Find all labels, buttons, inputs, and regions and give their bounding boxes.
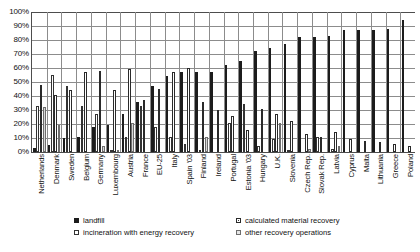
bar: [328, 36, 331, 152]
bar: [99, 71, 102, 152]
y-axis-tick-label: 10%: [14, 134, 29, 142]
x-label-cell: Hungary: [252, 154, 267, 212]
bar: [154, 127, 157, 152]
bar-group: [165, 12, 180, 152]
y-axis-tick-label: 100%: [9, 8, 29, 16]
bar: [143, 100, 146, 152]
bar-group: [341, 12, 356, 152]
x-label-cell: Portugal: [223, 154, 238, 212]
bar: [331, 149, 334, 152]
bar: [320, 137, 323, 152]
bar: [172, 72, 175, 152]
x-label-cell: Cyprus: [340, 154, 355, 212]
bar: [187, 68, 190, 152]
legend-label: other recovery operations: [245, 228, 331, 237]
bar: [136, 102, 139, 152]
bars-layer: [32, 12, 415, 152]
bar-group: [371, 12, 386, 152]
bar: [51, 75, 54, 152]
legend-label: incineration with energy recovery: [83, 228, 194, 237]
plot-area: [31, 12, 415, 153]
x-label-cell: Ireland: [208, 154, 223, 212]
x-label-cell: Poland: [399, 154, 414, 212]
bar-group: [135, 12, 150, 152]
bar: [122, 114, 125, 152]
bar: [69, 90, 72, 152]
bar-group: [47, 12, 62, 152]
x-label-cell: Finland: [193, 154, 208, 212]
legend-item-other-recovery-operations: other recovery operations: [236, 228, 331, 237]
bar: [33, 148, 36, 152]
bar: [63, 138, 66, 152]
x-label-cell: U.K.: [267, 154, 282, 212]
bar: [254, 51, 257, 152]
x-label-cell: France: [134, 154, 149, 212]
bar: [298, 37, 301, 152]
checker-hatch-swatch: [236, 218, 241, 223]
bar: [334, 132, 337, 152]
bar: [284, 44, 287, 152]
bar: [379, 142, 382, 152]
x-label-cell: Slovenia: [281, 154, 296, 212]
bar: [125, 137, 128, 152]
y-axis-tick-label: 50%: [14, 78, 29, 86]
bar-group: [268, 12, 283, 152]
waste-treatment-bar-chart: 0%10%20%30%40%50%60%70%80%90%100% Nether…: [0, 0, 420, 252]
bar-group: [224, 12, 239, 152]
bar: [205, 137, 208, 152]
bar: [279, 123, 282, 152]
x-label-cell: Malta: [355, 154, 370, 212]
bar: [408, 146, 411, 152]
x-label-cell: Italy: [164, 154, 179, 212]
x-axis-tick-label: Poland: [407, 154, 415, 177]
x-label-cell: Greece: [385, 154, 400, 212]
bar-group: [209, 12, 224, 152]
y-axis-tick-label: 40%: [14, 92, 29, 100]
x-label-cell: Netherlands: [31, 154, 46, 212]
bar: [66, 86, 69, 152]
y-axis-tick-label: 80%: [14, 36, 29, 44]
y-axis: 0%10%20%30%40%50%60%70%80%90%100%: [0, 0, 31, 160]
bar: [338, 146, 341, 152]
bar: [131, 123, 134, 152]
y-axis-tick-label: 60%: [14, 64, 29, 72]
light-grey-swatch: [236, 230, 241, 235]
x-label-cell: Latvia: [326, 154, 341, 212]
bar: [243, 104, 246, 152]
x-label-cell: Germany: [90, 154, 105, 212]
y-axis-tick-label: 90%: [14, 22, 29, 30]
bar: [357, 30, 360, 152]
bar: [202, 102, 205, 152]
bar: [269, 48, 272, 152]
x-label-cell: Denmark: [46, 154, 61, 212]
x-axis-category-labels: NetherlandsDenmarkSwedenBelgiumGermanyLu…: [31, 154, 414, 212]
bar: [43, 107, 46, 152]
bar-group: [238, 12, 253, 152]
bar: [180, 72, 183, 152]
bar-group: [282, 12, 297, 152]
bar-group: [386, 12, 401, 152]
bar: [92, 127, 95, 152]
y-axis-tick-label: 30%: [14, 106, 29, 114]
bar: [184, 144, 187, 152]
y-axis-tick-label: 0%: [18, 148, 29, 156]
y-axis-tick-label: 70%: [14, 50, 29, 58]
bar: [210, 72, 213, 152]
bar: [290, 121, 293, 152]
legend-item-landfill: landfill: [74, 216, 105, 225]
bar: [217, 110, 220, 152]
bar: [117, 150, 120, 152]
legend-label: calculated material recovery: [245, 216, 340, 225]
bar: [195, 72, 198, 152]
bar: [128, 69, 131, 152]
bar: [287, 150, 290, 152]
y-axis-tick-label: 20%: [14, 120, 29, 128]
bar-group: [253, 12, 268, 152]
bar-group: [312, 12, 327, 152]
legend-label: landfill: [83, 216, 105, 225]
bar: [166, 76, 169, 152]
bar: [246, 130, 249, 152]
plot-wrapper: 0%10%20%30%40%50%60%70%80%90%100%: [0, 0, 420, 160]
x-label-cell: Lithuania: [370, 154, 385, 212]
x-label-cell: Austria: [119, 154, 134, 212]
